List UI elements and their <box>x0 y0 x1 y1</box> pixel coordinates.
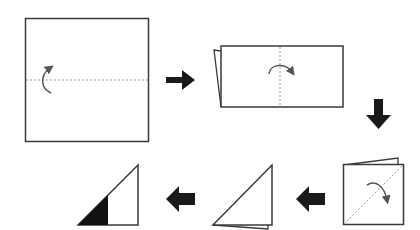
arrow-right-icon <box>166 70 195 90</box>
step-5-shaded-triangle <box>78 165 138 225</box>
step-3-small-square <box>344 158 404 225</box>
arrow-down-icon <box>366 99 391 129</box>
step-4-triangle <box>213 165 272 229</box>
step-2-rectangle <box>214 46 343 107</box>
origami-diagram <box>0 0 420 230</box>
arrow-left-icon <box>296 186 325 212</box>
arrow-left-icon <box>166 186 195 212</box>
step-1-square <box>26 19 149 142</box>
shaded-region <box>78 195 108 225</box>
